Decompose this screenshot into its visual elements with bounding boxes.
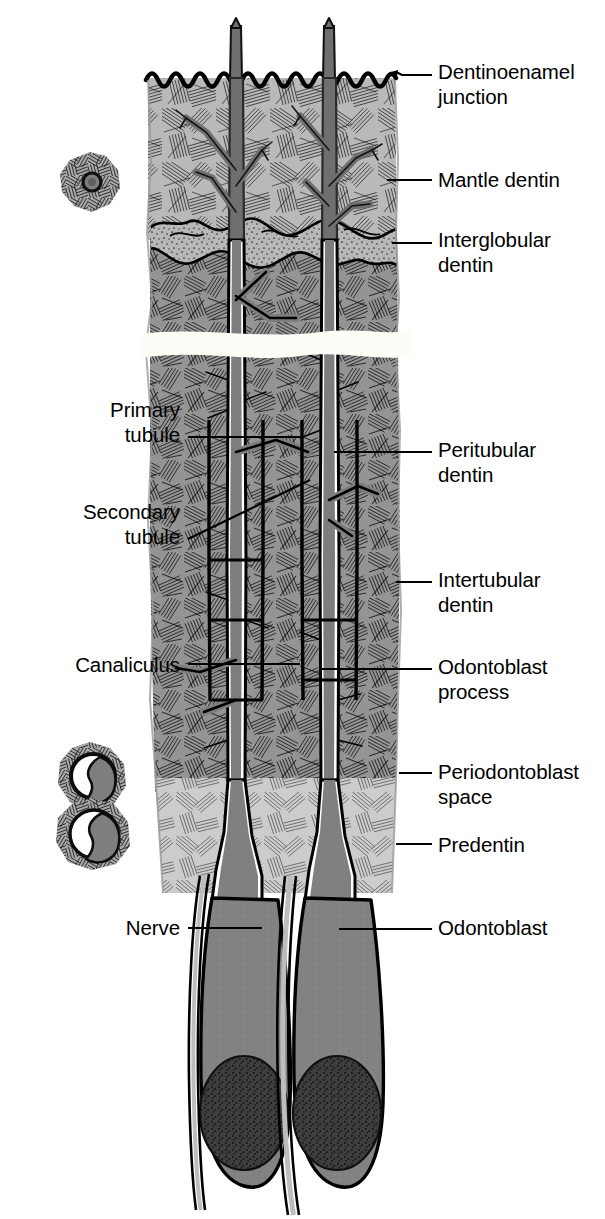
odontoblast-nucleus-right — [293, 1056, 381, 1170]
label-nerve: Nerve — [40, 916, 180, 941]
odontoblast-nucleus-left — [200, 1056, 288, 1170]
label-predentin: Predentin — [438, 833, 525, 858]
label-periodontoblast-space: Periodontoblast space — [438, 760, 579, 809]
label-secondary-tubule: Secondary tubule — [20, 500, 180, 549]
label-odontoblast-process: Odontoblast process — [438, 655, 547, 704]
label-interglobular-dentin: Interglobular dentin — [438, 228, 551, 277]
label-intertubular-dentin: Intertubular dentin — [438, 568, 541, 617]
label-odontoblast: Odontoblast — [438, 916, 547, 941]
odontoblast-cell-right — [293, 898, 383, 1187]
label-primary-tubule: Primary tubule — [40, 398, 180, 447]
label-canaliculus: Canaliculus — [10, 653, 180, 678]
label-mantle-dentin: Mantle dentin — [438, 168, 560, 193]
dentin-histology-figure: Dentinoenamel junction Mantle dentin Int… — [0, 0, 605, 1219]
label-peritubular-dentin: Peritubular dentin — [438, 438, 536, 487]
predentin-region — [155, 778, 396, 893]
label-dentinoenamel-junction: Dentinoenamel junction — [438, 60, 575, 109]
